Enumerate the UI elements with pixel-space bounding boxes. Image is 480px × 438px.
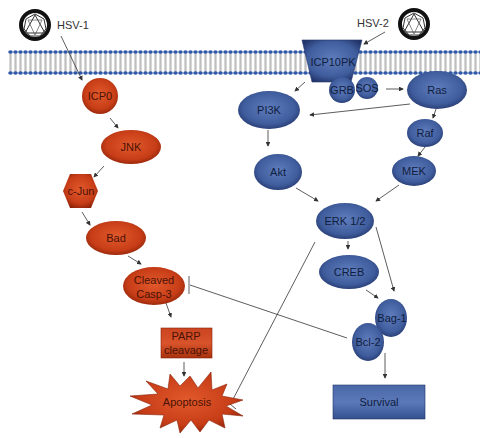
node-jnk[interactable]: JNK bbox=[101, 130, 161, 164]
edge-icp10pk-pi3k bbox=[295, 82, 305, 91]
node-pi3k-label: PI3K bbox=[257, 104, 282, 116]
node-apoptosis[interactable]: Apoptosis bbox=[130, 372, 243, 433]
node-grb[interactable]: GRB bbox=[329, 77, 355, 103]
node-grb-label: GRB bbox=[330, 84, 354, 96]
node-ras-label: Ras bbox=[427, 84, 447, 96]
hsv1-label: HSV-1 bbox=[57, 19, 89, 31]
node-erk[interactable]: ERK 1/2 bbox=[316, 203, 374, 239]
node-icp0[interactable]: ICP0 bbox=[82, 78, 118, 114]
edge-bad-casp3 bbox=[128, 256, 141, 264]
edge-creb-bag1 bbox=[366, 290, 378, 298]
edge-bcl2-inhibits-casp3 bbox=[190, 285, 347, 338]
pathway-diagram: HSV-1 HSV-2 bbox=[0, 0, 480, 438]
node-casp3-label-1: Cleaved bbox=[134, 274, 174, 286]
node-mek-label: MEK bbox=[402, 165, 427, 177]
hsv2-virus-icon bbox=[400, 10, 428, 38]
node-cjun-label: c-Jun bbox=[68, 185, 95, 197]
edge-erk-inhibits-apoptosis bbox=[230, 242, 315, 405]
node-akt[interactable]: Akt bbox=[254, 154, 302, 190]
edge-hsv2-icp10pk bbox=[364, 32, 385, 44]
node-jnk-label: JNK bbox=[121, 141, 142, 153]
edge-raf-mek bbox=[418, 147, 425, 156]
node-erk-label: ERK 1/2 bbox=[325, 215, 366, 227]
node-sos-label: SOS bbox=[355, 82, 378, 94]
node-creb[interactable]: CREB bbox=[319, 255, 379, 289]
node-bad-label: Bad bbox=[106, 232, 126, 244]
edge-erk-bag1 bbox=[376, 227, 394, 291]
edge-ras-raf bbox=[433, 109, 436, 118]
node-parp-cleavage[interactable]: PARP cleavage bbox=[161, 328, 212, 358]
node-creb-label: CREB bbox=[334, 266, 365, 278]
edge-jnk-cjun bbox=[94, 166, 104, 177]
node-bad[interactable]: Bad bbox=[86, 221, 146, 255]
edge-cjun-bad bbox=[82, 212, 90, 225]
hsv1-virus-icon bbox=[21, 11, 49, 39]
node-icp10pk[interactable]: ICP10PK bbox=[302, 40, 362, 82]
cell-membrane bbox=[8, 50, 480, 75]
edge-mek-erk bbox=[376, 185, 399, 201]
edge-akt-erk bbox=[296, 188, 318, 201]
edge-ras-pi3k bbox=[310, 104, 410, 115]
node-pi3k[interactable]: PI3K bbox=[238, 91, 300, 129]
node-raf[interactable]: Raf bbox=[407, 119, 443, 147]
node-sos[interactable]: SOS bbox=[355, 77, 378, 99]
node-raf-label: Raf bbox=[416, 127, 434, 139]
node-bcl2-label: Bcl-2 bbox=[355, 336, 380, 348]
node-akt-label: Akt bbox=[270, 166, 286, 178]
node-survival[interactable]: Survival bbox=[333, 385, 425, 419]
node-mek[interactable]: MEK bbox=[392, 156, 436, 186]
edge-casp3-parp bbox=[166, 303, 171, 317]
node-icp0-label: ICP0 bbox=[88, 90, 112, 102]
node-apoptosis-label: Apoptosis bbox=[163, 396, 212, 408]
node-bcl2[interactable]: Bcl-2 bbox=[352, 323, 384, 361]
node-cleaved-casp3[interactable]: Cleaved Casp-3 bbox=[123, 267, 185, 305]
edge-icp0-jnk bbox=[110, 118, 118, 128]
hsv2-label: HSV-2 bbox=[357, 17, 389, 29]
node-parp-label-2: cleavage bbox=[164, 344, 208, 356]
node-survival-label: Survival bbox=[359, 396, 398, 408]
node-casp3-label-2: Casp-3 bbox=[136, 288, 171, 300]
node-ras[interactable]: Ras bbox=[407, 71, 467, 109]
node-cjun[interactable]: c-Jun bbox=[63, 174, 98, 208]
node-bag1-label: Bag-1 bbox=[377, 312, 406, 324]
node-parp-label-1: PARP bbox=[171, 330, 200, 342]
node-icp10pk-label: ICP10PK bbox=[310, 56, 356, 68]
